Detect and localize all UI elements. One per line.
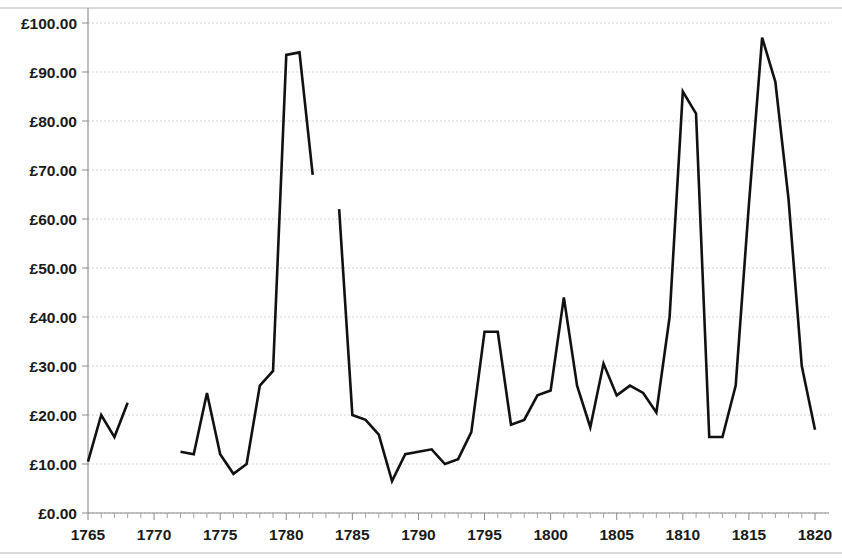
chart-container: £0.00£10.00£20.00£30.00£40.00£50.00£60.0… — [0, 0, 842, 559]
x-axis-tick-label: 1780 — [269, 526, 303, 543]
x-axis-tick-label: 1815 — [732, 526, 767, 543]
y-axis-tick-label: £0.00 — [38, 505, 77, 522]
x-axis-tick-label: 1805 — [599, 526, 634, 543]
y-axis-tick-label: £100.00 — [21, 15, 77, 32]
x-axis-tick-label: 1795 — [467, 526, 502, 543]
plot-border — [0, 8, 842, 553]
x-axis-tick-label: 1785 — [335, 526, 370, 543]
y-axis-ticks — [82, 23, 88, 513]
y-axis-tick-label: £30.00 — [30, 358, 77, 375]
x-axis-tick-label: 1775 — [203, 526, 238, 543]
y-axis-tick-label: £80.00 — [30, 113, 77, 130]
y-axis-tick-label: £50.00 — [30, 260, 77, 277]
x-axis-tick-label: 1790 — [401, 526, 435, 543]
x-axis-tick-label: 1765 — [71, 526, 106, 543]
y-axis-tick-label: £90.00 — [30, 64, 77, 81]
y-axis-tick-label: £20.00 — [30, 407, 77, 424]
y-axis-labels: £0.00£10.00£20.00£30.00£40.00£50.00£60.0… — [21, 15, 77, 522]
y-axis-tick-label: £60.00 — [30, 211, 77, 228]
line-chart: £0.00£10.00£20.00£30.00£40.00£50.00£60.0… — [0, 0, 842, 559]
x-axis-tick-label: 1810 — [666, 526, 700, 543]
x-axis-tick-label: 1770 — [137, 526, 171, 543]
y-axis-tick-label: £70.00 — [30, 162, 77, 179]
series-line-segment — [181, 52, 313, 473]
x-axis-tick-label: 1800 — [533, 526, 567, 543]
y-axis-tick-label: £10.00 — [30, 456, 77, 473]
x-axis-ticks — [88, 513, 815, 520]
x-axis-tick-label: 1820 — [798, 526, 832, 543]
gridlines — [88, 23, 829, 513]
series-line-segment — [88, 403, 128, 462]
y-axis-tick-label: £40.00 — [30, 309, 77, 326]
x-axis-labels: 1765177017751780178517901795180018051810… — [71, 526, 832, 543]
